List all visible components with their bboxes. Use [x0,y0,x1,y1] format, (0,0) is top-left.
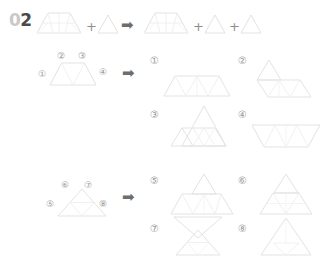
answer-a4-figure [251,124,321,148]
answer-a3-label: ③ [150,110,159,120]
answer-b6-figure [256,173,316,215]
equation-right-triangle-2 [240,14,262,34]
problem-a-arrow: ➡ [122,66,135,81]
source-b-label-5: ⑤ [46,200,54,209]
source-a-label-3: ③ [78,52,86,61]
problem-number-digit: 2 [20,10,31,30]
answer-b5-figure [170,173,234,215]
problem-b-arrow: ➡ [122,190,135,205]
source-a-label-4: ④ [99,68,107,77]
equation-plus-3: + [229,20,240,33]
answer-a4-label: ④ [238,110,247,120]
equation-plus-2: + [193,20,204,33]
answer-a1-label: ① [150,56,159,66]
equation-right-triangle-1 [204,14,226,34]
answer-a2-figure [253,59,319,98]
answer-a3-figure [170,105,232,147]
answer-b5-label: ⑤ [150,176,159,186]
answer-b7-label: ⑦ [150,224,159,234]
problem-number: 02 [9,12,32,29]
answer-a1-figure [163,75,231,97]
equation-left-trapezoid [36,12,82,34]
answer-b8-label: ⑧ [238,224,247,234]
answer-b8-figure [256,216,318,256]
equation-plus-1: + [86,20,97,33]
equation-right-trapezoid [143,12,189,34]
answer-b6-label: ⑥ [238,176,247,186]
equation-left-triangle [97,14,119,34]
source-shape-triangle [57,188,107,217]
equation-arrow: ➡ [121,18,134,33]
source-a-label-2: ② [57,52,65,61]
source-shape-trapezoid [49,62,97,86]
answer-a2-label: ② [238,56,247,66]
source-a-label-1: ① [38,70,46,79]
problem-number-prefix: 0 [9,10,20,30]
answer-b7-figure [168,216,228,256]
